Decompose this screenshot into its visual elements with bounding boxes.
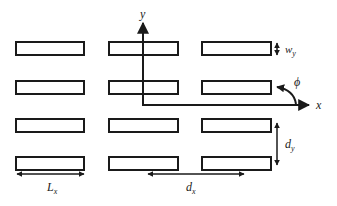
element-r3-c3 [202,119,271,132]
element-r2-c1 [16,81,84,94]
element-r1-c1 [16,42,84,55]
array-diagram: y x ϕ wy dy Lx dx [0,0,337,206]
angle-arc [277,87,296,104]
element-r1-c3 [202,42,271,55]
y-axis-label: y [139,7,146,21]
period-y-label: dy [285,137,295,153]
period-x-label: dx [186,180,196,196]
element-r3-c2 [109,119,178,132]
length-label: Lx [46,180,58,196]
element-row-3 [16,119,271,132]
element-r3-c1 [16,119,84,132]
element-r4-c3 [202,157,271,170]
angle-label: ϕ [294,75,300,89]
x-axis-label: x [315,98,322,112]
width-label: wy [285,43,296,58]
element-row-4 [16,157,271,170]
element-r4-c2 [109,157,178,170]
element-r2-c3 [202,81,271,94]
element-r4-c1 [16,157,84,170]
